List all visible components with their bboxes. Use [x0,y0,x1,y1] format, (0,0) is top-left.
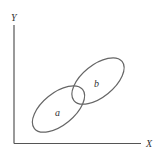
region-b-label: b [94,78,99,89]
x-axis-label: X [145,138,153,149]
region-a-label: a [55,107,60,118]
y-axis-label: Y [11,12,18,23]
ellipse-diagram: Y X a b [0,0,162,153]
